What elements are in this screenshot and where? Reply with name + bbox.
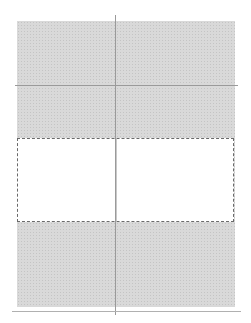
column-divider[interactable] — [115, 15, 116, 315]
bottom-guide-line — [12, 311, 241, 312]
row-divider-1[interactable] — [15, 85, 238, 86]
selected-row-region[interactable] — [17, 138, 234, 222]
selected-row-column-divider — [116, 139, 117, 221]
